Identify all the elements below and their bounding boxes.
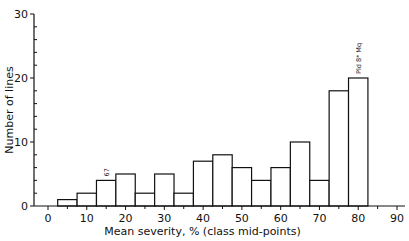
histogram-bar xyxy=(193,161,212,206)
x-tick-label: 70 xyxy=(312,212,326,225)
histogram-bar xyxy=(135,193,154,206)
histogram-bar xyxy=(349,78,368,206)
y-tick-label: 30 xyxy=(14,8,28,21)
histogram-bar xyxy=(271,168,290,206)
histogram-bar xyxy=(96,180,115,206)
histogram-bar xyxy=(155,174,174,206)
bar-annotation: 67 xyxy=(103,168,111,176)
histogram-bar xyxy=(116,174,135,206)
histogram-bar xyxy=(290,142,309,206)
x-tick-label: 0 xyxy=(45,212,52,225)
x-tick-label: 80 xyxy=(351,212,365,225)
histogram-bar xyxy=(329,91,348,206)
x-tick-label: 90 xyxy=(390,212,404,225)
histogram-chart: 01020300102030405060708090Mean severity,… xyxy=(0,0,409,241)
x-axis-label: Mean severity, % (class mid-points) xyxy=(104,225,300,238)
histogram-bar xyxy=(310,180,329,206)
histogram-bar xyxy=(77,193,96,206)
histogram-bar xyxy=(232,168,251,206)
y-tick-label: 20 xyxy=(14,72,28,85)
x-tick-label: 40 xyxy=(196,212,210,225)
x-tick-label: 60 xyxy=(274,212,288,225)
histogram-bar xyxy=(252,180,271,206)
histogram-bar xyxy=(174,193,193,206)
y-axis-label: Number of lines xyxy=(3,66,16,154)
x-tick-label: 30 xyxy=(157,212,171,225)
y-tick-label: 10 xyxy=(14,136,28,149)
histogram-bar xyxy=(58,200,77,206)
x-tick-label: 50 xyxy=(235,212,249,225)
x-tick-label: 20 xyxy=(119,212,133,225)
x-tick-label: 10 xyxy=(80,212,94,225)
histogram-bar xyxy=(213,155,232,206)
y-tick-label: 0 xyxy=(21,200,28,213)
bar-annotation: Pld 8* Mq xyxy=(355,43,363,74)
